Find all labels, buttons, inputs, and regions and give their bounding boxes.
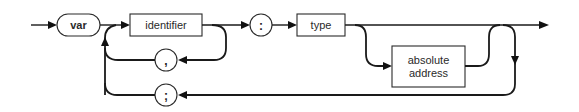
entry-arrow bbox=[31, 21, 57, 29]
colon-circle: : bbox=[250, 14, 272, 36]
exit-arrow bbox=[345, 21, 549, 29]
semicolon-circle: ; bbox=[155, 84, 177, 106]
absolute-label-line1: absolute bbox=[408, 54, 450, 66]
type-label: type bbox=[311, 19, 332, 31]
comma-return-path bbox=[105, 48, 155, 60]
identifier-box: identifier bbox=[130, 14, 202, 36]
var-label: var bbox=[70, 19, 87, 31]
repeat-loop-path bbox=[178, 25, 519, 99]
identifier-to-colon-line bbox=[202, 21, 250, 29]
absolute-label-line2: address bbox=[409, 67, 449, 79]
colon-to-type-line bbox=[272, 21, 297, 29]
semicolon-return-path bbox=[105, 83, 155, 95]
var-terminal: var bbox=[57, 14, 100, 36]
syntax-diagram: var identifier , : bbox=[0, 0, 579, 112]
comma-label: , bbox=[164, 54, 167, 68]
absolute-branch-path bbox=[355, 25, 392, 70]
absolute-address-box: absolute address bbox=[392, 46, 465, 87]
colon-label: : bbox=[259, 19, 263, 33]
absolute-rejoin-path bbox=[465, 25, 500, 66]
comma-circle: , bbox=[155, 49, 177, 71]
type-box: type bbox=[297, 14, 345, 36]
semicolon-label: ; bbox=[164, 89, 168, 103]
identifier-label: identifier bbox=[145, 19, 187, 31]
